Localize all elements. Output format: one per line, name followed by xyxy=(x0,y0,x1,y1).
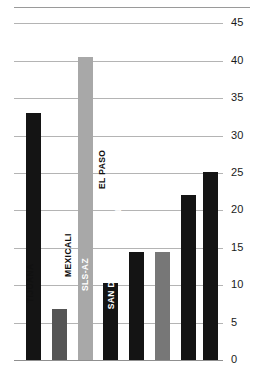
bar-chart: 051015202530354045 CIUDAD JUAREZTIJUANAS… xyxy=(0,0,258,381)
bar-label-calexico: CALEXICO xyxy=(111,178,258,225)
bar-label-san-luis-rc: SAN LUIS RC xyxy=(0,63,242,122)
bar-tijuana[interactable] xyxy=(52,309,67,360)
bars-group: CIUDAD JUAREZTIJUANASAN LUIS RCMEXICALIS… xyxy=(0,0,258,381)
